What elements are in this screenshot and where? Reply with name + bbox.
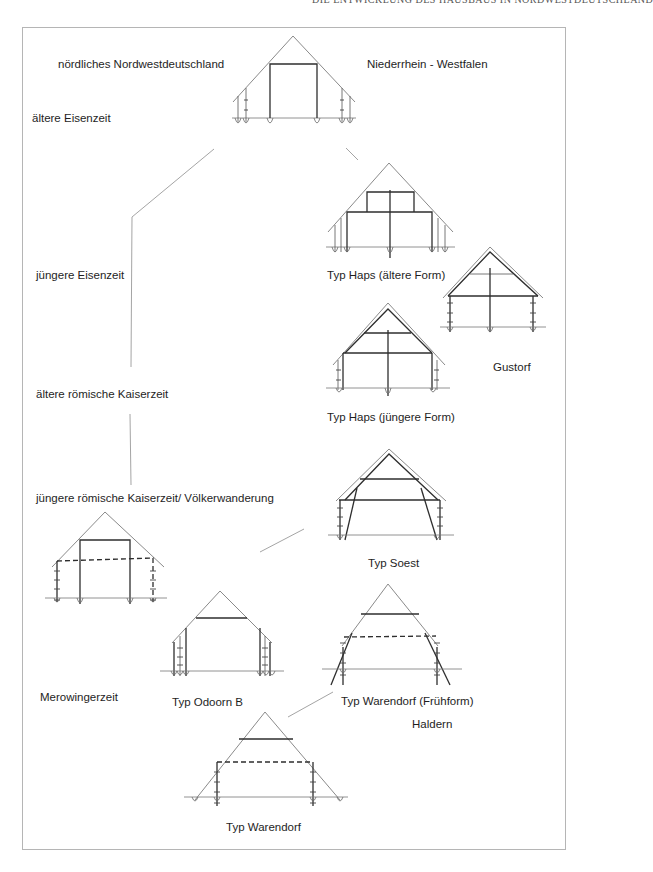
- caption-haldern: Haldern: [412, 719, 452, 731]
- caption-warendorf-fruehform: Typ Warendorf (Frühform): [341, 696, 474, 708]
- caption-warendorf: Typ Warendorf: [226, 822, 301, 834]
- region-label-left: nördliches Nordwestdeutschland: [58, 59, 224, 71]
- caption-soest: Typ Soest: [368, 558, 419, 570]
- caption-odoorn-b: Typ Odoorn B: [172, 697, 243, 709]
- period-label-merowingerzeit: Merowingerzeit: [40, 692, 118, 704]
- house-odoorn-b: [160, 591, 284, 676]
- caption-haps-juengere: Typ Haps (jüngere Form): [327, 412, 455, 424]
- period-label-aeltere-roemische-kaiserzeit: ältere römische Kaiserzeit: [36, 389, 168, 401]
- house-haps-juengere: [326, 303, 450, 396]
- period-label-aeltere-eisenzeit: ältere Eisenzeit: [32, 113, 111, 125]
- region-label-right: Niederrhein - Westfalen: [367, 59, 488, 71]
- connector-lines: [130, 148, 358, 717]
- caption-gustorf: Gustorf: [493, 362, 531, 374]
- house-warendorf-fruehform: [322, 584, 462, 685]
- house-soest: [328, 449, 454, 540]
- house-haps-aeltere: [326, 163, 455, 258]
- period-label-juengere-eisenzeit: jüngere Eisenzeit: [36, 270, 124, 282]
- period-label-juengere-roemische-kaiserzeit: jüngere römische Kaiserzeit/ Völkerwande…: [36, 493, 274, 505]
- house-gustorf: [440, 247, 546, 332]
- house-left: [45, 512, 167, 604]
- house-warendorf: [184, 712, 348, 806]
- house-top: [232, 36, 356, 123]
- caption-haps-aeltere: Typ Haps (ältere Form): [327, 270, 445, 282]
